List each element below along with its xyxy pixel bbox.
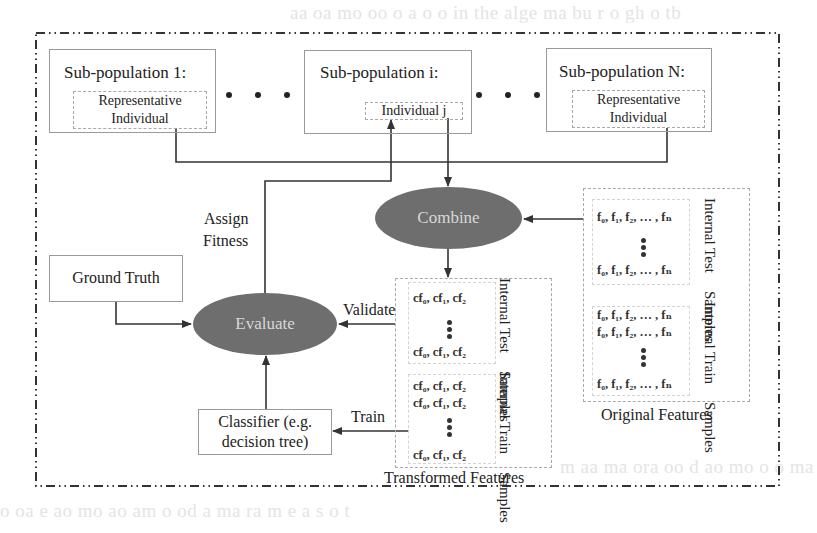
combine-node: Combine	[375, 187, 522, 249]
evaluate-label: Evaluate	[235, 314, 294, 334]
transformed-train-vertical-dots	[447, 418, 453, 439]
original-test-label-line1: Internal Test	[702, 198, 718, 273]
original-train-label-line1: Internal Train	[702, 302, 718, 384]
representative-individual-n-line1: Representative	[573, 92, 704, 107]
representative-individual-n-line2: Individual	[573, 110, 704, 125]
transformed-train-row-3: cf₀, cf₁, cf₂	[413, 449, 466, 463]
original-test-row-2: f₀, f₁, f₂, … , fₙ	[597, 264, 672, 278]
combine-label: Combine	[417, 208, 479, 228]
transformed-train-row-2: cf₀, cf₁, cf₂	[413, 397, 466, 411]
original-train-vertical-dots	[641, 348, 647, 369]
classifier-label-line1: Classifier (e.g.	[199, 413, 331, 431]
transformed-test-label-line1: Internal Test	[497, 278, 513, 353]
assign-fitness-arrow	[265, 120, 391, 293]
evaluate-node: Evaluate	[193, 293, 337, 355]
transformed-test-vertical-dots	[447, 320, 453, 341]
subpopulation-n-title: Sub-population N:	[559, 63, 685, 82]
original-train-row-2: f₀, f₁, f₂, … , fₙ	[597, 326, 672, 340]
assign-fitness-label-line2: Fitness	[203, 232, 248, 250]
assign-fitness-label-line1: Assign	[204, 210, 248, 228]
ground-truth-label: Ground Truth	[50, 269, 182, 287]
original-train-row-3: f₀, f₁, f₂, … , fₙ	[597, 378, 672, 392]
classifier-box: Classifier (e.g. decision tree)	[198, 409, 332, 455]
transformed-features-caption: Transformed Features	[384, 469, 524, 487]
groundtruth-to-evaluate-arrow	[116, 302, 191, 324]
individual-j-label: Individual j	[366, 103, 462, 118]
original-features-caption: Original Features	[601, 406, 713, 424]
original-train-samples-label: Internal Train Samples	[701, 302, 717, 453]
representative-individual-n-box: Representative Individual	[572, 90, 705, 128]
original-train-row-1: f₀, f₁, f₂, … , fₙ	[597, 309, 672, 323]
transformed-train-row-1: cf₀, cf₁, cf₂	[413, 380, 466, 394]
transformed-train-label-line1: Internal Train	[497, 372, 513, 454]
original-test-row-1: f₀, f₁, f₂, … , fₙ	[597, 211, 672, 225]
classifier-label-line2: decision tree)	[199, 433, 331, 451]
train-label: Train	[351, 408, 385, 426]
representative-individual-1-box: Representative Individual	[73, 91, 207, 129]
subpopulation-i-box: Sub-population i:	[304, 50, 472, 134]
subpopulation-i-title: Sub-population i:	[320, 64, 439, 83]
representative-individual-1-line2: Individual	[74, 111, 206, 126]
ground-truth-box: Ground Truth	[49, 255, 183, 302]
subpopulation-1-title: Sub-population 1:	[64, 64, 186, 83]
transformed-test-row-2: cf₀, cf₁, cf₂	[413, 346, 466, 360]
transformed-test-row-1: cf₀, cf₁, cf₂	[413, 292, 466, 306]
transformed-train-samples-label: Internal Train Samples	[496, 372, 512, 523]
representative-individual-1-line1: Representative	[74, 93, 206, 108]
individual-j-box: Individual j	[365, 102, 463, 120]
validate-label: Validate	[343, 301, 395, 319]
original-test-vertical-dots	[641, 238, 647, 259]
